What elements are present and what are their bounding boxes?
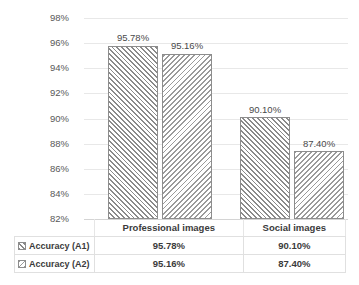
hatch-swatch-a2-icon <box>18 260 26 268</box>
table-row-categories: Professional images Social images <box>15 219 346 237</box>
y-tick-label-96: 96% <box>29 37 69 48</box>
value-cell-a2-professional: 95.16% <box>95 255 244 273</box>
bar-social-accuracy-a1 <box>240 117 290 219</box>
table-row-accuracy-a1: Accuracy (A1) 95.78% 90.10% <box>15 237 346 255</box>
value-cell-a2-social: 87.40% <box>243 255 345 273</box>
legend-label-accuracy-a2: Accuracy (A2) <box>29 259 90 269</box>
category-header-professional-images: Professional images <box>95 219 244 237</box>
category-header-social-images: Social images <box>243 219 345 237</box>
plot-area: 98% 96% 94% 92% 90% 88% 86% 84% 82% 95.7… <box>84 18 348 219</box>
y-tick-label-84: 84% <box>29 188 69 199</box>
y-tick-label-86: 86% <box>29 163 69 174</box>
y-tick-label-92: 92% <box>29 87 69 98</box>
bar-label-social-accuracy-a2: 87.40% <box>284 138 354 149</box>
bar-chart-with-data-table: 98% 96% 94% 92% 90% 88% 86% 84% 82% 95.7… <box>0 0 359 285</box>
data-table: Professional images Social images Accura… <box>14 219 346 273</box>
legend-label-accuracy-a1: Accuracy (A1) <box>29 241 90 251</box>
gridline-98 <box>84 18 348 19</box>
y-tick-label-94: 94% <box>29 62 69 73</box>
legend-cell-accuracy-a1: Accuracy (A1) <box>15 237 95 255</box>
value-cell-a1-professional: 95.78% <box>95 237 244 255</box>
y-tick-label-88: 88% <box>29 138 69 149</box>
bar-social-accuracy-a2 <box>294 151 344 219</box>
value-cell-a1-social: 90.10% <box>243 237 345 255</box>
y-tick-label-90: 90% <box>29 113 69 124</box>
hatch-swatch-a1-icon <box>18 242 26 250</box>
bar-label-social-accuracy-a1: 90.10% <box>230 104 300 115</box>
bar-professional-accuracy-a2 <box>162 54 212 219</box>
bar-label-professional-accuracy-a2: 95.16% <box>152 40 222 51</box>
y-tick-label-98: 98% <box>29 12 69 23</box>
bar-professional-accuracy-a1 <box>108 46 158 219</box>
table-corner-cell <box>15 219 95 237</box>
legend-cell-accuracy-a2: Accuracy (A2) <box>15 255 95 273</box>
table-row-accuracy-a2: Accuracy (A2) 95.16% 87.40% <box>15 255 346 273</box>
